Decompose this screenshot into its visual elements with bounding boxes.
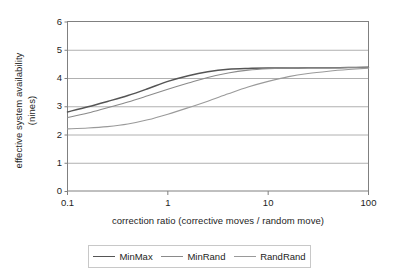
- chart-plot-area: [0, 0, 397, 280]
- x-axis-tick-label: 10: [248, 197, 288, 208]
- y-axis-tick-label: 0: [38, 185, 62, 196]
- legend-item-label: MinMax: [119, 251, 152, 262]
- data-series-group: [68, 67, 369, 129]
- y-axis-tick-label: 2: [38, 129, 62, 140]
- y-axis-tick-label: 6: [38, 16, 62, 27]
- series-line-minmax: [68, 67, 369, 112]
- x-axis-title: correction ratio (corrective moves / ran…: [67, 215, 369, 226]
- chart-legend: MinMaxMinRandRandRand: [88, 245, 311, 268]
- legend-item-label: RandRand: [260, 251, 305, 262]
- legend-item-randrand[interactable]: RandRand: [234, 251, 305, 262]
- chart-container: effective system availability (nines) co…: [0, 0, 397, 280]
- legend-line-swatch-icon: [161, 256, 183, 257]
- legend-line-swatch-icon: [93, 256, 115, 257]
- y-axis-tick-label: 5: [38, 44, 62, 55]
- y-axis-title-line1: effective system availability: [13, 53, 24, 169]
- series-line-randrand: [68, 68, 369, 129]
- y-axis-tick-label: 1: [38, 157, 62, 168]
- x-axis-tick-label: 0.1: [48, 197, 88, 208]
- y-axis-title: effective system availability (nines): [13, 23, 38, 198]
- x-axis-tick-label: 100: [349, 197, 389, 208]
- legend-item-label: MinRand: [187, 251, 225, 262]
- x-axis-tick-label: 1: [148, 197, 188, 208]
- series-line-minrand: [68, 67, 369, 117]
- y-axis-title-line2: (nines): [26, 96, 37, 125]
- y-axis-tick-label: 4: [38, 72, 62, 83]
- y-axis-tick-label: 3: [38, 100, 62, 111]
- legend-item-minmax[interactable]: MinMax: [93, 251, 152, 262]
- legend-item-minrand[interactable]: MinRand: [161, 251, 225, 262]
- legend-line-swatch-icon: [234, 256, 256, 257]
